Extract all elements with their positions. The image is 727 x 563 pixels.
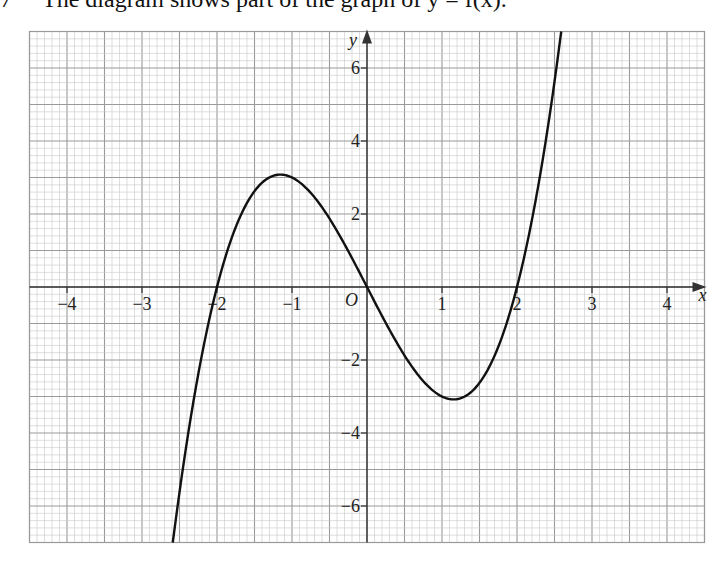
x-tick-label: −4 xyxy=(57,294,76,314)
graph-figure: xyO −4−3−2−11234−6−4−2246 xyxy=(0,0,727,563)
y-tick-label: 2 xyxy=(351,204,360,224)
origin-label: O xyxy=(345,290,358,310)
x-tick-label: 4 xyxy=(663,294,672,314)
y-tick-label: 6 xyxy=(351,58,360,78)
x-tick-label: −1 xyxy=(282,294,301,314)
x-tick-label: 1 xyxy=(438,294,447,314)
y-tick-label: −4 xyxy=(341,423,360,443)
y-tick-label: −2 xyxy=(341,350,360,370)
axes: xyO xyxy=(30,30,707,543)
y-axis-label: y xyxy=(347,30,357,50)
y-tick-label: −6 xyxy=(341,496,360,516)
x-axis-label: x xyxy=(698,285,707,305)
y-tick-label: 4 xyxy=(351,131,360,151)
x-tick-label: 3 xyxy=(588,294,597,314)
x-tick-label: −3 xyxy=(132,294,151,314)
